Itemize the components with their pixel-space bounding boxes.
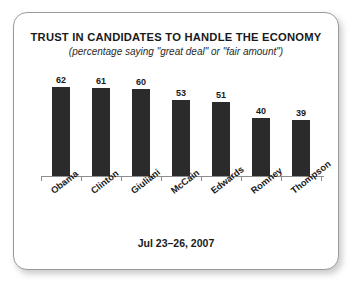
bar-group: 60 [121, 75, 161, 176]
axis-tick [281, 177, 282, 181]
bar-thompson [292, 120, 310, 176]
chart-footer-date: Jul 23–26, 2007 [14, 237, 338, 249]
chart-title: TRUST IN CANDIDATES TO HANDLE THE ECONOM… [14, 31, 338, 43]
chart-subtitle: (percentage saying "great deal" or "fair… [14, 46, 338, 57]
axis-tick [161, 177, 162, 181]
axis-tick [241, 177, 242, 181]
bar-giuliani [132, 89, 150, 176]
chart-card: TRUST IN CANDIDATES TO HANDLE THE ECONOM… [13, 12, 339, 270]
bar-group: 62 [41, 75, 81, 176]
bar-value-romney: 40 [241, 106, 281, 116]
axis-tick-start [41, 177, 42, 181]
axis-tick-end [321, 177, 322, 181]
bar-value-thompson: 39 [281, 108, 321, 118]
bar-group: 39 [281, 75, 321, 176]
bar-value-obama: 62 [41, 75, 81, 85]
bar-clinton [92, 88, 110, 176]
bar-romney [252, 118, 270, 176]
axis-tick [81, 177, 82, 181]
axis-tick [201, 177, 202, 181]
axis-tick [121, 177, 122, 181]
bar-edwards [212, 102, 230, 176]
bar-value-clinton: 61 [81, 76, 121, 86]
bar-group: 53 [161, 75, 201, 176]
bar-group: 61 [81, 75, 121, 176]
bar-value-mccain: 53 [161, 88, 201, 98]
bar-mccain [172, 100, 190, 176]
category-labels: ObamaClintonGiulianiMcCainEdwardsRomneyT… [41, 182, 323, 234]
bar-obama [52, 87, 70, 176]
bar-value-giuliani: 60 [121, 77, 161, 87]
bar-group: 40 [241, 75, 281, 176]
bar-group: 51 [201, 75, 241, 176]
plot-area: 62616053514039 [41, 75, 323, 176]
bar-value-edwards: 51 [201, 90, 241, 100]
